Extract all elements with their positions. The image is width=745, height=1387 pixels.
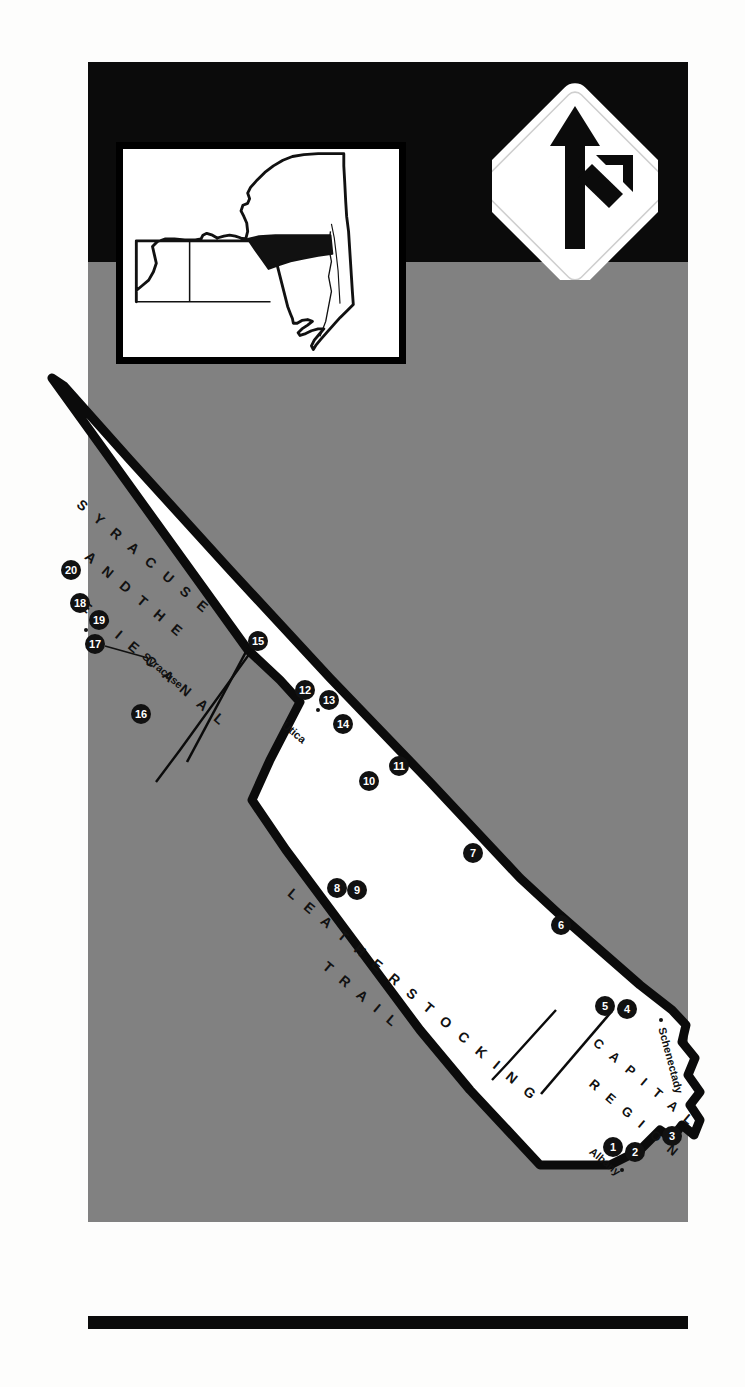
- map-marker-11[interactable]: 11: [389, 756, 409, 776]
- map-marker-16[interactable]: 16: [131, 704, 151, 724]
- map-marker-4[interactable]: 4: [617, 999, 637, 1019]
- footer-rule: [88, 1316, 688, 1329]
- map-marker-12[interactable]: 12: [295, 680, 315, 700]
- map-marker-13[interactable]: 13: [319, 690, 339, 710]
- map-marker-9[interactable]: 9: [347, 880, 367, 900]
- map-marker-17[interactable]: 17: [85, 634, 105, 654]
- map-marker-6[interactable]: 6: [551, 915, 571, 935]
- city-dot-albany: [620, 1168, 624, 1172]
- map-marker-14[interactable]: 14: [333, 714, 353, 734]
- new-york-state-inset-svg: [123, 149, 399, 357]
- city-dot-schenectady: [659, 1018, 663, 1022]
- map-marker-7[interactable]: 7: [463, 843, 483, 863]
- map-marker-8[interactable]: 8: [327, 878, 347, 898]
- map-marker-2[interactable]: 2: [625, 1142, 645, 1162]
- map-page: S Y R A C U S E A N D T H E E R I E C A …: [0, 0, 745, 1387]
- city-dot-utica: [316, 708, 320, 712]
- map-marker-15[interactable]: 15: [248, 631, 268, 651]
- map-marker-20[interactable]: 20: [61, 560, 81, 580]
- advance-right-turn-sign-svg: [492, 58, 658, 280]
- map-marker-18[interactable]: 18: [70, 593, 90, 613]
- map-marker-19[interactable]: 19: [89, 610, 109, 630]
- map-marker-5[interactable]: 5: [595, 996, 615, 1016]
- map-marker-3[interactable]: 3: [662, 1126, 682, 1146]
- advance-right-turn-sign: [492, 58, 658, 280]
- map-marker-10[interactable]: 10: [359, 771, 379, 791]
- city-dot-syracuse: [84, 628, 88, 632]
- map-marker-1[interactable]: 1: [603, 1137, 623, 1157]
